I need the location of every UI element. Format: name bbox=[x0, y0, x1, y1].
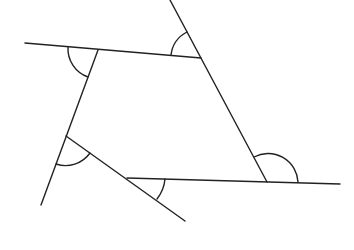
angle-arc-A bbox=[68, 47, 88, 77]
left-side-extended-line bbox=[41, 50, 98, 205]
angle-arc-D bbox=[157, 179, 165, 199]
right-side-extended-line bbox=[170, 0, 267, 182]
top-side-extended-line bbox=[25, 43, 201, 58]
angle-arc-C bbox=[254, 154, 298, 182]
pentagon-extended-sides bbox=[25, 0, 340, 221]
bottom-side-extended-line bbox=[127, 178, 340, 184]
angle-arc-B bbox=[171, 32, 187, 55]
geometry-diagram bbox=[0, 0, 354, 250]
exterior-angle-marks bbox=[56, 32, 298, 199]
angle-arc-E bbox=[56, 153, 90, 166]
